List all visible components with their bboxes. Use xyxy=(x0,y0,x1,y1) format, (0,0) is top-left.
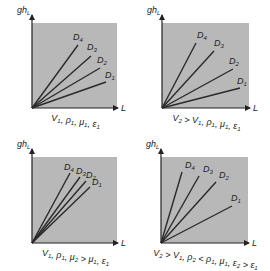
x-axis-label: L xyxy=(252,238,257,248)
y-axis-label: ghL xyxy=(146,139,159,150)
y-axis-label: ghL xyxy=(147,5,160,16)
panel-caption: V2 > V1, ρ1, μ1, ε1 xyxy=(172,113,240,132)
panel-caption: V1, ρ1, μ2 > μ1, ε1 xyxy=(42,248,109,267)
panel-caption: V2 > V1, ρ2 < ρ1, μ1, ε2 > ε1 xyxy=(153,248,257,271)
panel-3: ghLLD4D3D2D1V1, ρ1, μ2 > μ1, ε1 xyxy=(17,139,126,267)
y-axis-label: ghL xyxy=(17,5,30,16)
panel-1: ghLLD4D3D2D1V1, ρ1, μ1, ε1 xyxy=(17,5,126,130)
panel-2: ghLLD4D3D2D1V2 > V1, ρ1, μ1, ε1 xyxy=(147,5,258,132)
x-axis-label: L xyxy=(253,103,258,113)
x-axis-label: L xyxy=(121,103,126,113)
panel-caption: V1, ρ1, μ1, ε1 xyxy=(51,113,99,130)
x-axis-label: L xyxy=(121,238,126,248)
y-axis-label: ghL xyxy=(17,139,30,150)
pipe-flow-head-loss-diagram: ghLLD4D3D2D1V1, ρ1, μ1, ε1ghLLD4D3D2D1V2… xyxy=(0,0,270,271)
panel-4: ghLLD4D3D2D1V2 > V1, ρ2 < ρ1, μ1, ε2 > ε… xyxy=(146,139,258,271)
